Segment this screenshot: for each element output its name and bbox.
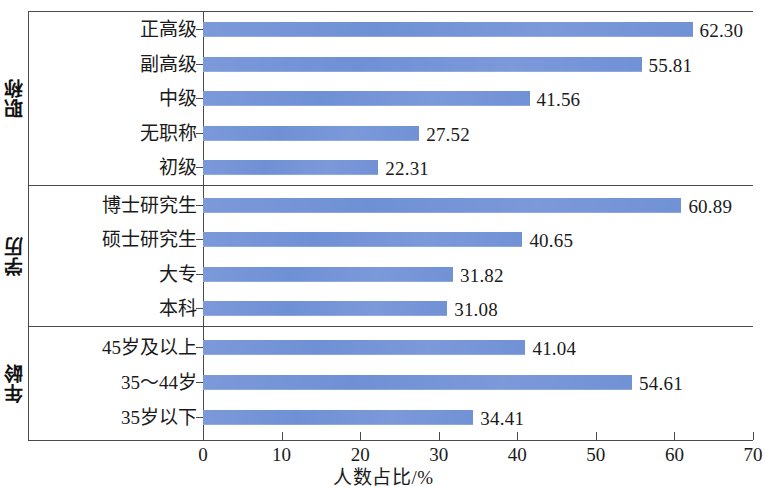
group-separator-rule	[28, 440, 753, 441]
category-label: 正高级	[17, 19, 197, 41]
bar-value-label: 31.82	[460, 268, 504, 283]
category-label: 初级	[17, 157, 197, 179]
category-tick	[196, 347, 203, 348]
category-label: 硕士研究生	[17, 229, 197, 251]
group-separator-rule	[28, 326, 753, 327]
bar	[203, 126, 419, 141]
bar	[203, 22, 693, 37]
category-label: 35～44岁	[17, 372, 197, 394]
bar-value-label: 54.61	[639, 376, 683, 391]
category-tick	[196, 205, 203, 206]
bar	[203, 160, 378, 175]
x-axis-tick	[753, 432, 754, 440]
x-axis-tick	[439, 432, 440, 440]
category-tick	[196, 417, 203, 418]
category-label: 无职称	[17, 123, 197, 145]
category-label: 中级	[17, 88, 197, 110]
category-tick	[196, 64, 203, 65]
bar	[203, 91, 530, 106]
category-tick	[196, 29, 203, 30]
group-separator-rule	[28, 11, 753, 12]
bar-value-label: 60.89	[688, 199, 732, 214]
bar	[203, 301, 447, 316]
bar	[203, 267, 453, 282]
category-tick	[196, 167, 203, 168]
bar-value-label: 40.65	[529, 233, 573, 248]
bar	[203, 232, 522, 247]
bar-value-label: 55.81	[649, 58, 693, 73]
grouped-horizontal-bar-chart: 职称62.30正高级55.81副高级41.56中级27.52无职称22.31初级…	[0, 0, 767, 487]
category-label: 45岁及以上	[17, 337, 197, 359]
bar-value-label: 31.08	[454, 302, 498, 317]
bar	[203, 340, 525, 355]
category-label: 35岁以下	[17, 407, 197, 429]
bar	[203, 375, 632, 390]
bar-value-label: 41.56	[537, 92, 581, 107]
x-axis-tick	[596, 432, 597, 440]
category-label: 本科	[17, 298, 197, 320]
x-axis-tick	[674, 432, 675, 440]
bar-value-label: 41.04	[532, 341, 576, 356]
bar	[203, 410, 473, 425]
bar-value-label: 34.41	[480, 411, 524, 426]
category-label: 博士研究生	[17, 195, 197, 217]
x-axis-tick	[360, 432, 361, 440]
category-label: 大专	[17, 264, 197, 286]
bar-value-label: 62.30	[700, 23, 744, 38]
category-tick	[196, 98, 203, 99]
bar-value-label: 27.52	[426, 127, 470, 142]
x-axis-tick	[282, 432, 283, 440]
category-tick	[196, 239, 203, 240]
category-tick	[196, 133, 203, 134]
category-tick	[196, 274, 203, 275]
bar-value-label: 22.31	[385, 161, 429, 176]
category-label: 副高级	[17, 54, 197, 76]
category-tick	[196, 382, 203, 383]
x-axis-title: 人数占比/%	[0, 462, 767, 487]
bar	[203, 198, 681, 213]
group-separator-rule	[28, 185, 753, 186]
x-axis-tick	[517, 432, 518, 440]
x-axis-tick	[203, 432, 204, 440]
category-tick	[196, 308, 203, 309]
bar	[203, 57, 642, 72]
